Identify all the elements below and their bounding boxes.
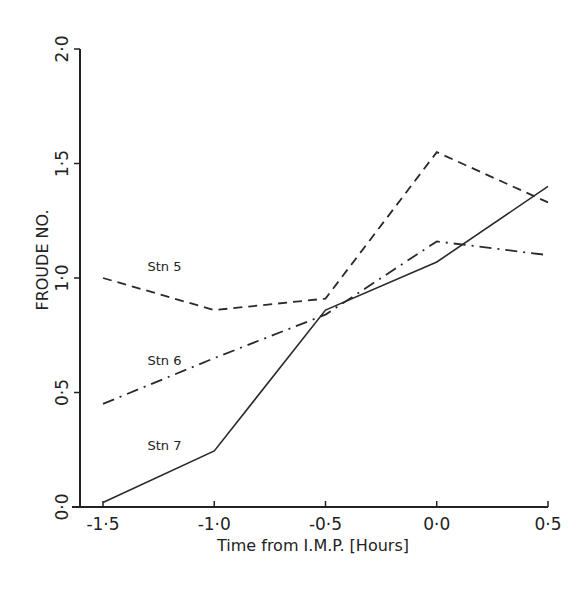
x-tick-label: -1·5 xyxy=(86,514,119,534)
y-tick-label: 0·5 xyxy=(52,379,72,406)
series-line-stn-7 xyxy=(103,186,548,502)
series-labels: Stn 5Stn 6Stn 7 xyxy=(148,259,182,453)
x-tick-label: 0·0 xyxy=(423,514,450,534)
x-axis-label: Time from I.M.P. [Hours] xyxy=(216,536,409,555)
y-tick-label: 1·0 xyxy=(52,264,72,291)
x-tick-label: -1·0 xyxy=(198,514,231,534)
froude-number-chart: 0·00·51·01·52·0-1·5-1·0-0·50·00·5 Stn 5S… xyxy=(0,0,583,589)
x-tick-label: -0·5 xyxy=(309,514,342,534)
series-annotation: Stn 7 xyxy=(148,438,182,453)
y-tick-label: 1·5 xyxy=(52,150,72,177)
series-annotation: Stn 5 xyxy=(148,259,182,274)
x-tick-label: 0·5 xyxy=(534,514,561,534)
y-axis-label: FROUDE NO. xyxy=(33,209,52,310)
series-annotation: Stn 6 xyxy=(148,353,182,368)
y-tick-label: 2·0 xyxy=(52,35,72,62)
y-tick-label: 0·0 xyxy=(52,493,72,520)
axes: 0·00·51·01·52·0-1·5-1·0-0·50·00·5 xyxy=(52,35,562,534)
